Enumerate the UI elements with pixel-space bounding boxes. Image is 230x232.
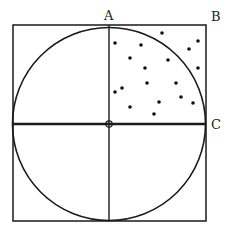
sample-point [139, 43, 143, 47]
sample-point [143, 66, 147, 70]
label-b: B [211, 9, 221, 24]
sample-point [128, 105, 132, 109]
sample-points [113, 31, 200, 116]
sample-point [160, 31, 164, 35]
label-a: A [103, 8, 114, 23]
sample-point [174, 81, 178, 85]
sample-point [145, 81, 149, 85]
sample-point [166, 58, 170, 62]
sample-point [128, 56, 132, 60]
sample-point [120, 86, 124, 90]
sample-point [179, 95, 183, 99]
sample-point [157, 100, 161, 104]
sample-point [113, 41, 117, 45]
sample-point [196, 39, 200, 43]
monte-carlo-pi-diagram: A B C [0, 0, 230, 232]
sample-point [187, 47, 191, 51]
sample-point [113, 90, 117, 94]
sample-point [196, 66, 200, 70]
sample-point [152, 112, 156, 116]
label-c: C [211, 117, 221, 132]
sample-point [191, 101, 195, 105]
